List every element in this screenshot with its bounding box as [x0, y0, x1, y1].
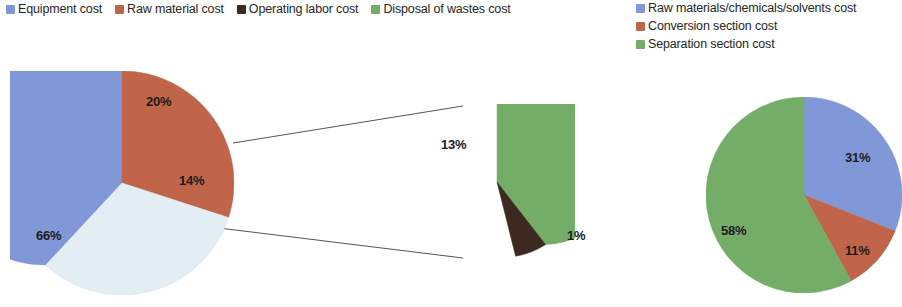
color-swatch-icon [371, 5, 380, 14]
left-pie-label-14: 14% [179, 173, 204, 188]
legend-right: Raw materials/chemicals/solvents cost Co… [636, 2, 856, 56]
color-swatch-icon [636, 22, 645, 31]
mid-pie-label-13: 13% [441, 137, 466, 152]
legend-item-equipment-cost: Equipment cost [6, 3, 102, 16]
left-pie-label-66: 66% [36, 228, 61, 243]
legend-item-raw-material-cost: Raw material cost [115, 3, 224, 16]
right-pie-label-58: 58% [721, 223, 746, 238]
color-swatch-icon [636, 4, 645, 13]
mid-pie-svg [419, 104, 575, 260]
legend-item-label: Disposal of wastes cost [383, 3, 510, 16]
color-swatch-icon [237, 5, 246, 14]
legend-item-label: Operating labor cost [249, 3, 359, 16]
legend-item-disposal-of-wastes-cost: Disposal of wastes cost [371, 3, 510, 16]
detail-breakout-pie [419, 104, 575, 260]
legend-left: Equipment cost Raw material cost Operati… [6, 3, 524, 16]
legend-item-operating-labor-cost: Operating labor cost [237, 3, 359, 16]
legend-item-label: Equipment cost [18, 3, 102, 16]
mid-pie-label-1: 1% [567, 228, 585, 243]
color-swatch-icon [636, 40, 645, 49]
pie-chart-figure: Equipment cost Raw material cost Operati… [0, 0, 902, 307]
right-pie-label-11: 11% [845, 243, 870, 258]
right-pie-svg [706, 97, 902, 293]
right-section-cost-pie [706, 97, 902, 293]
color-swatch-icon [115, 5, 124, 14]
color-swatch-icon [6, 5, 15, 14]
legend-item-separation-section-cost: Separation section cost [636, 38, 775, 51]
legend-item-label: Conversion section cost [648, 20, 777, 33]
legend-item-conversion-section-cost: Conversion section cost [636, 20, 777, 33]
legend-item-label: Separation section cost [648, 38, 775, 51]
left-pie-label-20: 20% [146, 94, 171, 109]
legend-item-raw-materials-chemicals-solvents-cost: Raw materials/chemicals/solvents cost [636, 2, 856, 15]
right-pie-label-31: 31% [845, 150, 870, 165]
legend-item-label: Raw materials/chemicals/solvents cost [648, 2, 856, 15]
legend-item-label: Raw material cost [127, 3, 224, 16]
